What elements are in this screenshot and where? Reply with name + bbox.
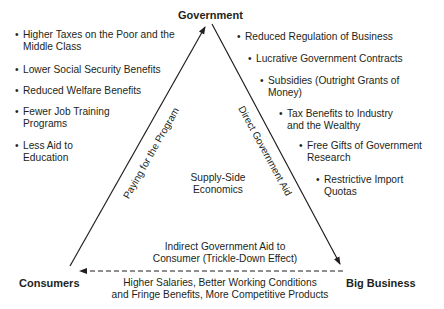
list-item: •Higher Taxes on the Poor and the Middle… [15,29,175,54]
list-item-text-line2: Education [15,152,73,164]
bullet-icon: • [248,53,256,65]
list-item-text: Restrictive Import [324,174,403,185]
consumer-benefits-line1: Higher Salaries, Better Working Conditio… [85,277,355,289]
list-item-text: Less Aid to [23,140,73,151]
center-label-supply-side-economics: Supply-Side Economics [168,172,268,197]
consumer-benefits-line2: and Fringe Benefits, More Competitive Pr… [85,289,355,301]
list-item-text: Higher Taxes on the Poor and the [23,29,175,40]
center-label-line1: Supply-Side [168,172,268,184]
list-item-text-line2: Money) [260,87,399,99]
node-consumers: Consumers [19,277,80,289]
indirect-aid-line1: Indirect Government Aid to [110,241,340,253]
bullet-icon: • [15,64,23,76]
list-item-text: Fewer Job Training [23,106,110,117]
list-item-text-line2: Quotas [316,186,403,198]
bullet-icon: • [237,31,245,43]
list-item: •Free Gifts of Government Research [299,140,422,165]
list-item-text: Free Gifts of Government [307,140,422,151]
bullet-icon: • [279,108,287,120]
bullet-icon: • [299,140,307,152]
list-item: •Fewer Job Training Programs [15,106,110,131]
bullet-icon: • [15,106,23,118]
bullet-icon: • [15,29,23,41]
list-item-text: Reduced Regulation of Business [245,31,393,42]
list-item-text: Reduced Welfare Benefits [23,85,141,96]
edge-label-indirect-aid: Indirect Government Aid to Consumer (Tri… [110,241,340,266]
list-item: •Subsidies (Outright Grants of Money) [260,75,399,100]
bullet-icon: • [15,140,23,152]
list-item-text: Subsidies (Outright Grants of [268,75,399,86]
list-item-text: Lucrative Government Contracts [256,53,403,64]
list-item: •Restrictive Import Quotas [316,174,403,199]
business-benefits-list: •Reduced Regulation of Business •Lucrati… [222,0,444,240]
list-item-text-line2: Research [299,152,422,164]
indirect-aid-line2: Consumer (Trickle-Down Effect) [110,253,340,265]
list-item: •Reduced Regulation of Business [237,31,393,43]
list-item-text-line2: Middle Class [15,41,175,53]
list-item-text: Tax Benefits to Industry [287,108,393,119]
list-item: •Tax Benefits to Industry and the Wealth… [279,108,393,133]
list-item-text-line2: Programs [15,118,110,130]
edge-label-consumer-benefits: Higher Salaries, Better Working Conditio… [85,277,355,302]
bullet-icon: • [316,174,324,186]
list-item-text: Lower Social Security Benefits [23,64,161,75]
list-item: •Lower Social Security Benefits [15,64,161,76]
list-item-text-line2: and the Wealthy [279,120,393,132]
list-item: •Reduced Welfare Benefits [15,85,141,97]
node-big-business: Big Business [346,277,416,289]
consumer-costs-list: •Higher Taxes on the Poor and the Middle… [0,0,200,170]
list-item: •Lucrative Government Contracts [248,53,403,65]
bullet-icon: • [260,75,268,87]
center-label-line2: Economics [168,184,268,196]
list-item: •Less Aid to Education [15,140,73,165]
bullet-icon: • [15,85,23,97]
